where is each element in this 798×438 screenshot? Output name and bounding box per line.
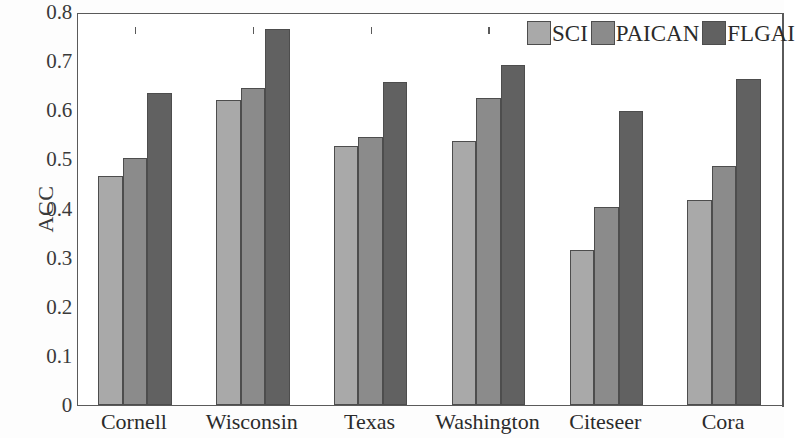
bar [98,176,123,405]
y-axis-tick-label: 0.6 [12,100,72,121]
right-axis-spine [782,13,784,407]
legend-label: FLGAI [726,22,798,45]
y-axis-tick-label: 0.1 [12,346,72,367]
y-axis-tick-label: 0.8 [12,2,72,23]
y-axis-tick-label: 0.7 [12,51,72,72]
bar [476,98,501,405]
bar [570,250,595,405]
bar [358,137,383,405]
bar [265,29,290,405]
y-axis-tick-label: 0.3 [12,248,72,269]
bar [241,88,266,405]
legend-label: SCI [551,22,591,45]
x-axis-tick [253,27,255,34]
x-axis-label: Texas [344,410,395,434]
legend-item: SCI [527,19,591,47]
plot-area [77,13,784,406]
bar [147,93,172,405]
legend-item: FLGAI [702,19,798,47]
x-axis-label: Wisconsin [206,410,298,434]
bar [216,100,241,405]
x-axis-label: Citeseer [569,410,641,434]
legend-label: PAICAN [615,22,703,45]
bar [687,200,712,405]
y-axis-tick-label: 0.5 [12,149,72,170]
legend-swatch-icon [702,21,726,45]
bar [712,166,737,405]
bar [452,141,477,405]
bar [594,207,619,405]
bar [736,79,761,405]
x-axis-label: Cora [702,410,745,434]
legend-swatch-icon [591,21,615,45]
bar [619,111,644,405]
y-axis-tick-label: 0.4 [12,199,72,220]
bar [334,146,359,405]
legend-item: PAICAN [591,19,703,47]
y-axis-tick-label: 0.2 [12,297,72,318]
legend-swatch-icon [527,21,551,45]
x-axis-tick [371,27,373,34]
bar [383,82,408,405]
x-axis-label: Cornell [101,410,167,434]
x-axis-tick [488,27,490,34]
x-axis-label: Washington [435,410,540,434]
bar [123,158,148,405]
x-axis-tick [135,27,137,34]
y-axis-tick-label: 0 [12,395,72,416]
bar [501,65,526,405]
chart-legend: SCIPAICANFLGAI [527,19,798,47]
